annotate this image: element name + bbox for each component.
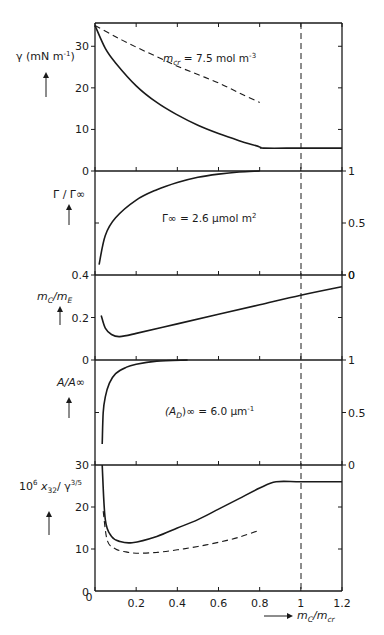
y-tick-label: 20 bbox=[75, 501, 89, 514]
y-tick-label: 0.5 bbox=[348, 217, 366, 230]
A-ylabel: A/A∞ bbox=[56, 376, 85, 389]
right-arrow-icon bbox=[264, 613, 293, 619]
x32-ylabel: 106 x32/ γ3/5 bbox=[19, 479, 82, 495]
y-tick-label: 30 bbox=[75, 459, 89, 472]
curve-gamma-solid bbox=[95, 26, 342, 149]
y-tick-label: 0 bbox=[82, 165, 89, 178]
curve-x32-solid bbox=[102, 465, 342, 543]
x-tick-label: 0.6 bbox=[210, 597, 228, 610]
Gamma-annotation: Γ∞ = 2.6 μmol m2 bbox=[162, 212, 256, 224]
up-arrow-icon bbox=[66, 397, 72, 418]
y-tick-label: 20 bbox=[75, 82, 89, 95]
panel-Gamma-labels: Γ / Γ∞ Γ∞ = 2.6 μmol m2 bbox=[53, 188, 256, 225]
curve-mc_me-solid bbox=[101, 287, 342, 337]
y-tick-label: 1 bbox=[348, 165, 355, 178]
up-arrow-icon bbox=[66, 204, 72, 225]
up-arrow-icon bbox=[46, 511, 52, 535]
tick-labels: 00.20.40.60.811.2010203000.5100.20.400.5… bbox=[72, 40, 366, 610]
y-tick-label: 0 bbox=[348, 459, 355, 472]
panel-gamma-labels: γ (mN m-1) mcr = 7.5 mol m-3 bbox=[16, 50, 256, 97]
curve-area_ratio-solid bbox=[102, 360, 187, 444]
y-tick-label: 0 bbox=[82, 586, 89, 599]
x-tick-label: 0.2 bbox=[127, 597, 145, 610]
y-tick-label: 0.5 bbox=[348, 407, 366, 420]
y-tick-label: 1 bbox=[348, 354, 355, 367]
gamma-annotation: mcr = 7.5 mol m-3 bbox=[163, 52, 256, 67]
mc-me-ylabel: mC/mE bbox=[37, 290, 72, 305]
y-tick-label: 0.4 bbox=[72, 269, 90, 282]
gamma-ylabel: γ (mN m-1) bbox=[16, 50, 75, 63]
y-tick-label: 10 bbox=[75, 123, 89, 136]
x-tick-label: 1.2 bbox=[333, 597, 351, 610]
y-tick-label: 10 bbox=[75, 543, 89, 556]
panel-x32-labels: 106 x32/ γ3/5 bbox=[19, 479, 82, 535]
x-axis-label: mC/mcr bbox=[264, 609, 336, 624]
data-curves bbox=[95, 26, 342, 554]
up-arrow-icon bbox=[43, 72, 49, 97]
chart-frame bbox=[95, 23, 342, 591]
x-tick-label: 0.8 bbox=[251, 597, 269, 610]
panel-mc-labels: mC/mE bbox=[37, 290, 72, 325]
panel-A-labels: A/A∞ (AD)∞ = 6.0 μm-1 bbox=[56, 376, 254, 420]
A-annotation: (AD)∞ = 6.0 μm-1 bbox=[165, 405, 254, 420]
Gamma-ylabel: Γ / Γ∞ bbox=[53, 188, 85, 201]
y-tick-label: 0 bbox=[348, 269, 355, 282]
stacked-chart: 00.20.40.60.811.2010203000.5100.20.400.5… bbox=[0, 0, 384, 635]
curve-x32-dashed bbox=[103, 511, 260, 553]
up-arrow-icon bbox=[57, 306, 63, 325]
y-tick-label: 30 bbox=[75, 40, 89, 53]
xlabel: mC/mcr bbox=[297, 609, 336, 624]
x-tick-label: 0.4 bbox=[169, 597, 187, 610]
y-tick-label: 0 bbox=[82, 354, 89, 367]
tick-marks bbox=[91, 23, 346, 591]
y-tick-label: 0.2 bbox=[72, 312, 90, 325]
